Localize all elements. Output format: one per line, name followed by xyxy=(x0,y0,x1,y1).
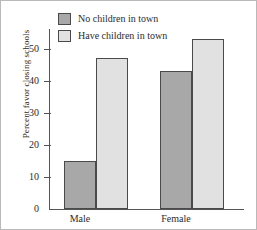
bar-female-have-children xyxy=(192,39,224,209)
y-tick-label-40: 40 xyxy=(1,76,39,86)
y-tick-label-30: 30 xyxy=(1,108,39,118)
bar-female-no-children xyxy=(160,71,192,209)
legend-label-no-children: No children in town xyxy=(78,14,158,24)
y-tick-label-0: 0 xyxy=(1,204,39,214)
bars-container xyxy=(50,29,245,209)
legend-swatch-no-children xyxy=(58,13,71,25)
y-tick-label-10: 10 xyxy=(1,172,39,182)
y-tick-label-50: 50 xyxy=(1,44,39,54)
legend-item-no-children: No children in town xyxy=(58,11,208,27)
y-tick-label-20: 20 xyxy=(1,140,39,150)
y-axis-ticks: 50 40 30 20 10 0 xyxy=(1,1,50,230)
x-axis-line xyxy=(49,209,244,210)
x-label-female: Female xyxy=(146,213,206,224)
x-label-male: Male xyxy=(50,213,110,224)
bar-male-have-children xyxy=(96,58,128,209)
bar-chart-figure: No children in town Have children in tow… xyxy=(0,0,257,230)
bar-male-no-children xyxy=(64,161,96,209)
